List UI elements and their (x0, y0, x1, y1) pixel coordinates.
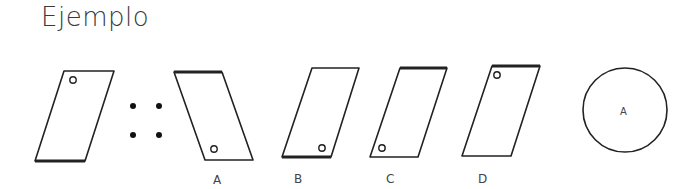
option-d-label: D (478, 172, 487, 186)
option-a-parallelogram[interactable] (174, 72, 253, 160)
option-b-label: B (294, 172, 302, 186)
separator-dots (130, 103, 162, 138)
option-b-parallelogram[interactable] (282, 68, 359, 157)
option-c-parallelogram[interactable] (370, 68, 447, 157)
option-c-label: C (386, 172, 394, 186)
analogy-figure: A B C D A (0, 0, 699, 189)
option-d-parallelogram[interactable] (462, 66, 540, 156)
answer-circle-label: A (620, 106, 627, 117)
option-a-label: A (213, 173, 222, 187)
premise-parallelogram (35, 71, 114, 161)
